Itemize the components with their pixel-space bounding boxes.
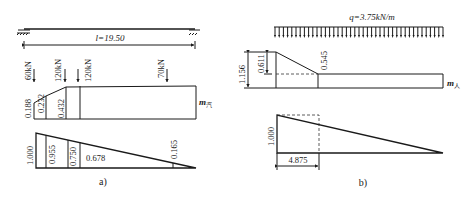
span-dimension: l=19.50	[24, 33, 195, 49]
axle-loads: 60kN 120kN 120kN 70kN	[23, 59, 167, 82]
load-70kn: 70kN	[156, 59, 167, 82]
caption-b: b)	[359, 177, 367, 189]
distributed-load: q=3.75kN/m	[274, 12, 444, 38]
svg-text:70kN: 70kN	[156, 59, 166, 78]
load-120kn-1: 120kN	[53, 59, 65, 82]
m-pedestrian-label: m人	[447, 78, 460, 89]
value-0-955: 0.955	[47, 145, 57, 164]
coefficient-diagram-pedestrian: 0.545 m人	[276, 51, 460, 89]
svg-text:120kN: 120kN	[53, 59, 63, 82]
caption-a: a)	[99, 176, 107, 188]
value-1-000: 1.000	[25, 146, 35, 165]
figure-b: q=3.75kN/m 1.156 0.611 0.545 m人 1.000	[237, 12, 460, 189]
span-label: l=19.50	[96, 33, 125, 43]
influence-line-b: 1.000 4.875	[266, 115, 443, 170]
dimension-4-875: 4.875	[288, 155, 307, 165]
value-0-611: 0.611	[256, 54, 266, 73]
value-0-232: 0.232	[36, 94, 46, 113]
load-120kn-2: 120kN	[78, 59, 93, 82]
distributed-load-label: q=3.75kN/m	[349, 12, 395, 22]
value-0-165: 0.165	[169, 140, 179, 159]
roller-support-icon	[189, 30, 200, 35]
value-0-545: 0.545	[319, 51, 329, 70]
value-0-188: 0.188	[23, 99, 33, 118]
figure-a: l=19.50 60kN 120kN 120kN 70kN	[17, 29, 212, 188]
load-60kn: 60kN	[23, 61, 34, 82]
value-1-000-b: 1.000	[266, 127, 276, 146]
value-0-678: 0.678	[86, 153, 105, 163]
svg-text:60kN: 60kN	[23, 61, 33, 80]
pin-support-icon	[17, 30, 30, 35]
height-dimensions: 1.156 0.611	[237, 52, 276, 88]
value-1-156: 1.156	[237, 65, 247, 84]
coefficient-diagram-vehicle: 0.188 0.232 0.432 m汽	[23, 86, 212, 119]
load-arrows-icon	[274, 27, 444, 38]
value-0-750: 0.750	[68, 147, 78, 166]
diagram-canvas: l=19.50 60kN 120kN 120kN 70kN	[0, 0, 474, 199]
influence-line-a: 1.000 0.955 0.750 0.678 0.165	[25, 133, 196, 168]
svg-text:120kN: 120kN	[83, 59, 93, 82]
value-0-432: 0.432	[56, 99, 66, 118]
m-vehicle-label: m汽	[199, 97, 212, 108]
